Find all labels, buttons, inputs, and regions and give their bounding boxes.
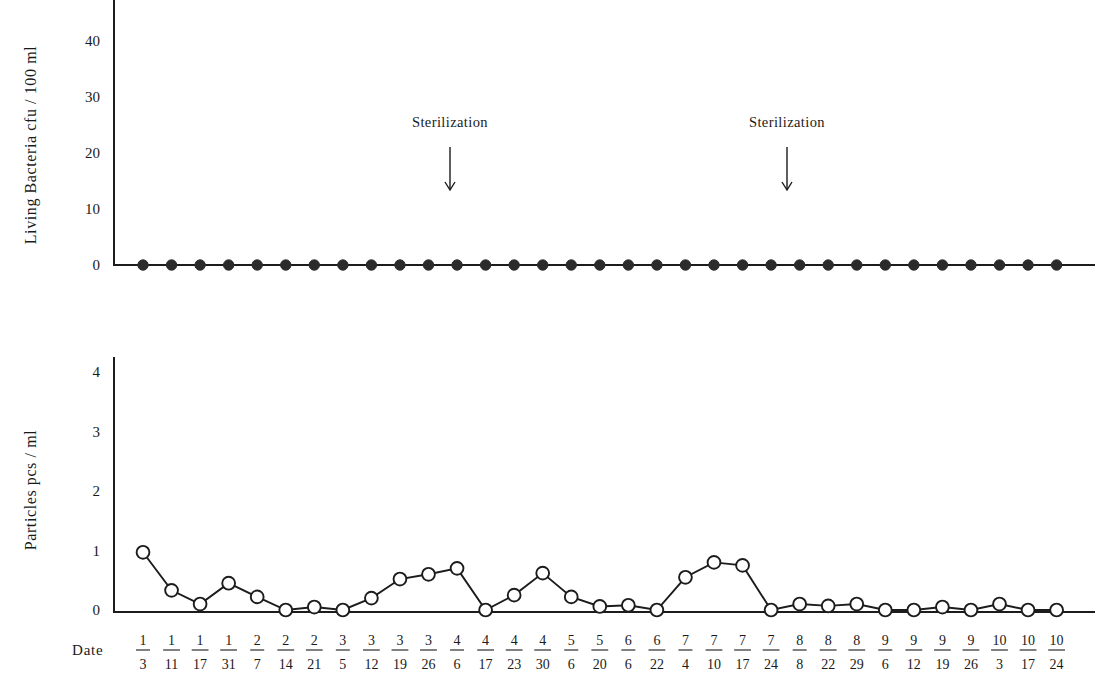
particles-point	[850, 598, 863, 611]
date-month: 7	[739, 633, 746, 648]
date-month: 1	[225, 633, 232, 648]
date-day: 10	[707, 657, 721, 672]
date-month: 9	[967, 633, 974, 648]
date-day: 3	[140, 657, 147, 672]
date-month: 2	[282, 633, 289, 648]
particles-point	[479, 604, 492, 617]
bacteria-point	[1023, 260, 1033, 270]
particles-point	[194, 598, 207, 611]
bacteria-point	[880, 260, 890, 270]
date-tick: 46	[450, 633, 464, 672]
particles-panel: 01234 Particles pcs / ml	[22, 357, 1095, 618]
bacteria-point	[1051, 260, 1061, 270]
particles-point	[137, 546, 150, 559]
bacteria-ytick-40: 40	[85, 33, 100, 49]
date-tick: 74	[678, 633, 692, 672]
particles-axes	[114, 357, 1095, 612]
particles-ytick-2: 2	[93, 483, 101, 499]
particles-point	[165, 584, 178, 597]
date-month: 1	[168, 633, 175, 648]
bacteria-point	[937, 260, 947, 270]
date-day: 12	[364, 657, 378, 672]
date-month: 7	[682, 633, 689, 648]
particles-point	[536, 567, 549, 580]
date-month: 4	[539, 633, 546, 648]
date-tick: 312	[363, 633, 380, 672]
particles-ytick-labels: 01234	[93, 364, 101, 618]
date-tick: 926	[963, 633, 980, 672]
particles-point	[336, 604, 349, 617]
date-tick: 56	[564, 633, 578, 672]
date-tick: 417	[477, 633, 494, 672]
date-tick: 919	[934, 633, 951, 672]
date-tick: 221	[306, 633, 323, 672]
particles-ytick-3: 3	[93, 424, 101, 440]
date-month: 10	[993, 633, 1007, 648]
date-day: 29	[850, 657, 864, 672]
particles-point	[422, 568, 435, 581]
date-month: 7	[768, 633, 775, 648]
date-tick: 829	[848, 633, 865, 672]
bacteria-point	[452, 260, 462, 270]
date-month: 1	[197, 633, 204, 648]
particles-ytick-0: 0	[93, 602, 101, 618]
bacteria-ytick-10: 10	[85, 201, 100, 217]
date-month: 3	[425, 633, 432, 648]
date-tick: 710	[706, 633, 723, 672]
date-month: 4	[454, 633, 461, 648]
particles-point	[1022, 604, 1035, 617]
bacteria-point	[566, 260, 576, 270]
particles-point	[879, 604, 892, 617]
date-month: 9	[882, 633, 889, 648]
chart-canvas: 010203040 Living Bacteria cfu / 100 ml S…	[0, 0, 1110, 681]
date-tick: 117	[192, 633, 209, 672]
date-day: 17	[736, 657, 750, 672]
bacteria-point	[281, 260, 291, 270]
date-tick: 27	[250, 633, 264, 672]
date-day: 6	[882, 657, 889, 672]
date-month: 8	[796, 633, 803, 648]
bacteria-ytick-0: 0	[93, 257, 101, 273]
bacteria-point	[223, 260, 233, 270]
bacteria-point	[737, 260, 747, 270]
date-tick-group: 1311111713127214221353123193264641742343…	[136, 633, 1065, 672]
date-day: 22	[650, 657, 664, 672]
date-month: 10	[1021, 633, 1035, 648]
date-month: 6	[625, 633, 632, 648]
date-tick: 520	[591, 633, 608, 672]
bacteria-point	[909, 260, 919, 270]
bacteria-ytick-30: 30	[85, 89, 100, 105]
particles-point	[965, 604, 978, 617]
date-month: 8	[825, 633, 832, 648]
date-tick: 103	[991, 633, 1008, 672]
date-tick: 66	[621, 633, 635, 672]
date-day: 4	[682, 657, 689, 672]
date-day: 17	[1021, 657, 1035, 672]
date-tick: 822	[820, 633, 837, 672]
bacteria-point	[994, 260, 1004, 270]
bacteria-panel: 010203040 Living Bacteria cfu / 100 ml	[22, 0, 1095, 273]
date-day: 14	[279, 657, 293, 672]
date-month: 9	[910, 633, 917, 648]
date-day: 24	[1050, 657, 1064, 672]
chart-figure: 010203040 Living Bacteria cfu / 100 ml S…	[0, 0, 1110, 681]
particles-point	[308, 601, 321, 614]
bacteria-axis-line	[114, 0, 1095, 265]
date-day: 26	[964, 657, 978, 672]
bacteria-point	[794, 260, 804, 270]
date-month: 5	[596, 633, 603, 648]
particles-point	[508, 589, 521, 602]
bacteria-point	[595, 260, 605, 270]
date-day: 26	[422, 657, 436, 672]
particles-point	[622, 599, 635, 612]
particles-ytick-4: 4	[93, 364, 101, 380]
date-day: 7	[254, 657, 261, 672]
date-tick: 13	[136, 633, 150, 672]
annotation-label: Sterilization	[412, 114, 488, 130]
particles-point	[593, 600, 606, 613]
date-day: 17	[193, 657, 207, 672]
particles-point	[679, 571, 692, 584]
date-day: 8	[796, 657, 803, 672]
date-tick: 214	[277, 633, 294, 672]
date-tick: 326	[420, 633, 437, 672]
